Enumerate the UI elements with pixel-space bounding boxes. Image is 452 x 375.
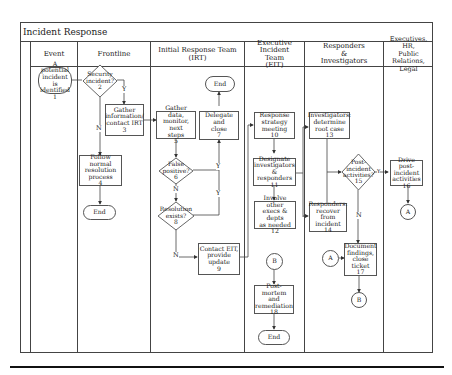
node-text: B [272, 258, 277, 265]
connector-b-responders[interactable]: B [351, 292, 367, 308]
node-text: Delegate and [200, 112, 238, 125]
node-6-false-positive-decision[interactable]: False positive? 6 [158, 157, 194, 185]
node-text: 8 [174, 219, 178, 225]
edge-label-2-yes: Y [122, 86, 126, 93]
node-text: & responders [254, 169, 295, 182]
node-text: mortem and [255, 290, 293, 303]
node-text: 12 [271, 228, 279, 235]
node-3-gather-information[interactable]: Gather information/ contact IRT 3 [105, 104, 144, 136]
node-5-gather-data[interactable]: Gather data, monitor, next steps 5 [156, 111, 196, 139]
node-text: 6 [174, 174, 178, 180]
node-text: 2 [98, 84, 102, 90]
node-text: 4 [99, 180, 103, 187]
node-14-responders-recover[interactable]: Responders: recover from incident 14 [309, 203, 347, 232]
node-text: Drive post- [391, 157, 422, 170]
node-text: 5 [174, 138, 178, 145]
node-16-drive-post-incident[interactable]: Drive post- incident activities 16 [390, 160, 423, 186]
node-end-frontline[interactable]: End [83, 205, 116, 220]
flow-connectors [0, 0, 452, 375]
node-11-designate-investigators[interactable]: Designate investigators & responders 11 [253, 158, 296, 186]
node-text: 16 [403, 183, 411, 190]
node-8-resolution-exists-decision[interactable]: Resolution exists? 8 [157, 201, 195, 231]
node-text: 9 [217, 266, 221, 273]
node-12-involve-other-execs[interactable]: Involve other execs & depts as needed 12 [254, 201, 296, 229]
edge-label-6-no: N [173, 186, 179, 193]
node-text: monitor, next [157, 118, 195, 131]
node-17-document-findings[interactable]: Document findings, close ticket 17 [344, 243, 377, 276]
node-9-contact-eit[interactable]: Contact EIT, provide update 9 [198, 243, 240, 275]
node-text: End [268, 334, 280, 341]
node-18-post-mortem[interactable]: Post- mortem and remediation 18 [254, 285, 294, 314]
node-text: 15 [355, 178, 363, 184]
node-text: 14 [324, 227, 332, 234]
edge-label-2-no: N [96, 125, 102, 132]
node-1-potential-incident[interactable]: A potential incident is identified 1 [38, 67, 72, 94]
node-15-post-incident-activities-decision[interactable]: Post- incident activities? 15 [341, 153, 376, 191]
node-text: 17 [357, 269, 365, 276]
connector-b-eit[interactable]: B [266, 253, 283, 270]
node-text: 18 [270, 309, 278, 316]
node-text: A [328, 255, 332, 262]
node-text: A potential [39, 61, 71, 74]
bottom-rule [10, 366, 444, 368]
edge-label-6-yes: Y [216, 163, 220, 170]
node-end-eit[interactable]: End [258, 330, 290, 345]
node-text: 3 [123, 127, 127, 134]
node-text: B [357, 297, 362, 304]
node-text: A [406, 209, 410, 216]
node-text: 7 [217, 132, 221, 139]
node-2-security-incident-decision[interactable]: Security incident? 2 [82, 64, 118, 98]
node-10-response-strategy-meeting[interactable]: Response strategy meeting 10 [254, 112, 295, 139]
node-text: 10 [271, 132, 279, 139]
edge-label-8-no: N [173, 252, 179, 259]
node-text: recover from [310, 208, 346, 221]
node-text: execs & depts [255, 208, 295, 221]
node-text: 11 [271, 182, 279, 189]
edge-label-15-yes: Y [377, 168, 380, 175]
node-text: End [214, 81, 226, 88]
connector-a-executives[interactable]: A [400, 204, 416, 220]
node-text: 13 [326, 132, 334, 139]
node-13-investigators-root-case[interactable]: Investigators: determine root case 13 [309, 112, 350, 139]
edge-label-8-yes: Y [216, 190, 220, 197]
node-end-irt[interactable]: End [205, 76, 235, 92]
connector-a-responders[interactable]: A [322, 250, 339, 267]
node-7-delegate-and-close[interactable]: Delegate and close 7 [199, 111, 239, 140]
node-text: 1 [53, 94, 57, 101]
node-4-follow-normal-resolution[interactable]: Follow normal resolution process 4 [79, 155, 122, 186]
edge-label-15-no: N [356, 212, 362, 219]
node-text: End [93, 209, 105, 216]
